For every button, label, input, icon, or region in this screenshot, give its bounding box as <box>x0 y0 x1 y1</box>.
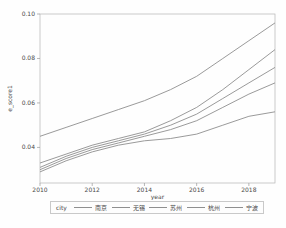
series-line-4 <box>40 112 275 172</box>
legend-entry-label: 宁波 <box>246 205 258 211</box>
legend-line-swatch <box>187 207 205 208</box>
x-tick-label: 2012 <box>85 186 100 193</box>
y-tick-label: 0.10 <box>22 10 36 17</box>
legend-entry-label: 南京 <box>95 205 107 211</box>
line-chart-figure: 0.040.060.080.1020102012201420162018e_sc… <box>0 0 286 228</box>
y-axis-title: e_score1 <box>6 85 14 112</box>
legend-entry-0: 南京 <box>74 205 107 211</box>
legend-line-swatch <box>74 207 92 208</box>
legend-entry-2: 苏州 <box>149 205 182 211</box>
x-tick-label: 2018 <box>241 186 256 193</box>
legend-entry-1: 无锡 <box>112 205 145 211</box>
y-tick-label: 0.08 <box>22 54 36 61</box>
x-axis-title: year <box>151 193 165 200</box>
legend-line-swatch <box>112 207 130 208</box>
chart-legend: city 南京无锡苏州杭州宁波 <box>50 201 264 214</box>
series-line-1 <box>40 50 275 163</box>
x-tick-label: 2014 <box>137 186 152 193</box>
chart-canvas: 0.040.060.080.1020102012201420162018e_sc… <box>0 0 286 200</box>
legend-title: city <box>56 205 67 211</box>
legend-line-swatch <box>225 207 243 208</box>
y-tick-label: 0.06 <box>22 99 36 106</box>
legend-line-swatch <box>149 207 167 208</box>
legend-entry-label: 无锡 <box>133 205 145 211</box>
legend-entry-4: 宁波 <box>225 205 258 211</box>
legend-entry-3: 杭州 <box>187 205 220 211</box>
x-tick-label: 2016 <box>189 186 204 193</box>
legend-entry-label: 苏州 <box>170 205 182 211</box>
legend-entry-label: 杭州 <box>208 205 220 211</box>
series-line-2 <box>40 67 275 167</box>
x-tick-label: 2010 <box>32 186 47 193</box>
y-tick-label: 0.04 <box>22 143 36 150</box>
